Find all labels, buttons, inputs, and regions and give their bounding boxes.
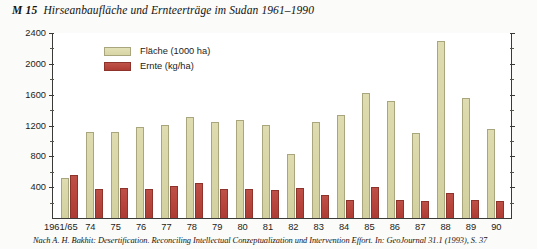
legend-item-flaeche: Fläche (1000 ha) [104,46,210,56]
x-axis-tick-label: 89 [458,221,483,235]
bar-ernte [120,188,128,218]
bar-flaeche [437,41,445,218]
bar-group [333,33,358,218]
x-axis-tick-label: 77 [154,221,179,235]
x-axis-tick-label: 88 [433,221,458,235]
bar-flaeche [262,125,270,218]
bar-group [408,33,433,218]
bar-group [283,33,308,218]
bar-flaeche [462,98,470,218]
y-axis-tick-label: 2000 [25,59,46,69]
x-axis-tick-label: 86 [382,221,407,235]
ernte-swatch-icon [104,62,131,71]
bar-flaeche [236,120,244,218]
bar-ernte [346,200,354,218]
legend-label-flaeche: Fläche (1000 ha) [140,46,210,56]
bar-flaeche [186,117,194,218]
bar-group [383,33,408,218]
bar-group [433,33,458,218]
bar-flaeche [362,93,370,218]
bar-ernte [145,189,153,218]
y-axis-tick-label: 2400 [25,28,46,38]
x-axis-tick-label: 85 [357,221,382,235]
bar-ernte [70,175,78,218]
source-note: Nach A. H. Bakhit: Desertification. Reco… [33,236,487,245]
bar-ernte [271,190,279,218]
x-axis-tick-label: 80 [230,221,255,235]
bar-flaeche [287,154,295,218]
bar-group [232,33,257,218]
x-axis-tick-label: 79 [204,221,229,235]
x-axis-tick-label: 84 [331,221,356,235]
bar-ernte [471,200,479,218]
y-axis-tick-label: 1600 [25,90,46,100]
x-axis-tick-label: 74 [78,221,103,235]
bar-ernte [245,189,253,218]
bar-ernte [195,183,203,218]
bar-flaeche [136,127,144,218]
bar-group [483,33,508,218]
bar-group [57,33,82,218]
x-axis-tick-label: 81 [255,221,280,235]
bar-group [358,33,383,218]
bar-flaeche [86,132,94,218]
bar-flaeche [387,101,395,218]
bar-ernte [95,189,103,218]
y-axis-tick-label: 400 [30,182,46,192]
page-title: M 15Hirseanbaufläche und Ernteerträge im… [12,4,314,16]
bar-group [308,33,333,218]
chart-page: M 15Hirseanbaufläche und Ernteerträge im… [0,0,537,249]
bar-ernte [421,201,429,218]
bar-group [258,33,283,218]
bar-flaeche [337,115,345,218]
y-axis-tick-label: 800 [30,151,46,161]
x-axis-tick-label: 83 [306,221,331,235]
x-axis-labels: 1961/65747576777879808182838485868788899… [52,221,512,235]
x-axis-tick-label: 87 [407,221,432,235]
bar-ernte [446,193,454,218]
figure-code: M 15 [12,4,37,16]
chart-legend: Fläche (1000 ha) Ernte (kg/ha) [104,46,210,71]
bar-flaeche [161,125,169,218]
x-axis-tick-label: 76 [128,221,153,235]
x-axis-tick-label: 1961/65 [44,221,78,235]
x-axis-tick-label: 75 [103,221,128,235]
bar-flaeche [211,122,219,218]
figure-title-text: Hirseanbaufläche und Ernteerträge im Sud… [43,4,314,16]
bar-ernte [371,187,379,218]
bar-ernte [321,195,329,218]
bar-group [458,33,483,218]
bar-ernte [296,188,304,218]
bar-flaeche [487,129,495,218]
bar-group [207,33,232,218]
x-axis-tick-label: 82 [281,221,306,235]
x-axis-tick-label: 78 [179,221,204,235]
bar-ernte [496,201,504,218]
y-axis-tick-label: 1200 [25,121,46,131]
flaeche-swatch-icon [104,47,131,56]
legend-item-ernte: Ernte (kg/ha) [104,61,210,71]
bar-ernte [396,200,404,218]
bar-ernte [220,189,228,218]
bar-flaeche [111,132,119,218]
x-axis-tick-label: 90 [484,221,509,235]
legend-label-ernte: Ernte (kg/ha) [140,61,194,71]
bar-flaeche [61,178,69,218]
bar-flaeche [412,133,420,218]
bar-flaeche [312,122,320,218]
bar-ernte [170,186,178,218]
